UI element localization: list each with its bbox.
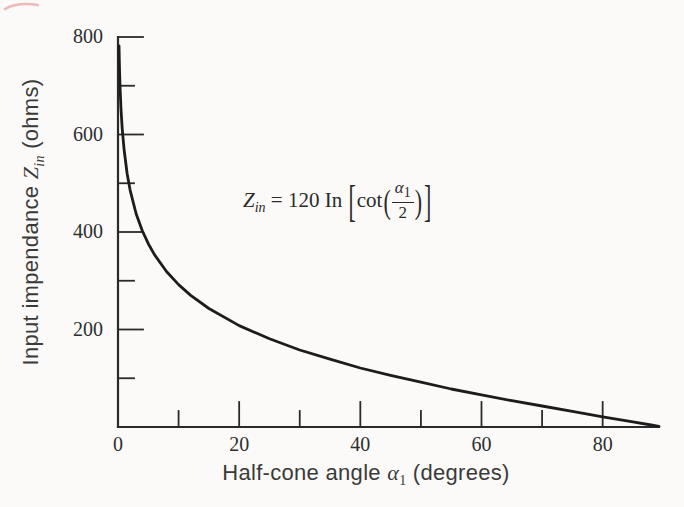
equation-fraction-denominator: 2: [398, 203, 407, 222]
x-axis-variable: α: [387, 460, 399, 485]
equation-right-bracket: ]: [424, 151, 431, 254]
equation-lhs-variable: Z: [243, 188, 255, 212]
equation-left-bracket: [: [348, 151, 355, 254]
y-tick-label: 200: [43, 318, 103, 341]
equation-fraction-numerator: α1: [392, 179, 414, 203]
equation-cot-function: cot: [357, 188, 383, 212]
y-tick-label: 800: [43, 25, 103, 48]
equation-fraction: α12: [392, 179, 414, 222]
red-pen-mark: [5, 4, 38, 9]
x-axis-label-prefix: Half-cone angle: [222, 460, 387, 485]
y-axis-variable: Z: [18, 167, 43, 180]
y-axis-variable-subscript: in: [32, 155, 47, 167]
scan-artifact-mark: [2, 0, 44, 14]
x-tick-label: 20: [209, 433, 269, 456]
x-axis-label: Half-cone angle α1 (degrees): [222, 460, 509, 489]
equation-equals-coefficient: = 120 In: [266, 188, 348, 212]
equation-right-paren: ): [415, 163, 422, 241]
y-tick-label: 400: [43, 220, 103, 243]
x-axis-label-suffix: (degrees): [406, 460, 509, 485]
x-tick-label: 80: [573, 433, 633, 456]
x-tick-label: 40: [330, 433, 390, 456]
equation-lhs-subscript: in: [255, 200, 266, 215]
plot-svg: [0, 0, 684, 507]
figure-canvas: Input impendance Zin (ohms) Half-cone an…: [0, 0, 684, 507]
equation-left-paren: (: [383, 163, 390, 241]
y-axis-label-suffix: (ohms): [18, 79, 43, 156]
x-tick-label: 0: [88, 433, 148, 456]
equation-alpha-subscript: 1: [404, 185, 411, 200]
equation-annotation: Zin = 120 In [cot(α12)]: [243, 175, 432, 225]
y-tick-label: 600: [43, 123, 103, 146]
x-tick-label: 60: [451, 433, 511, 456]
y-axis-label-prefix: Input impendance: [18, 179, 43, 365]
equation-alpha: α: [395, 178, 404, 197]
